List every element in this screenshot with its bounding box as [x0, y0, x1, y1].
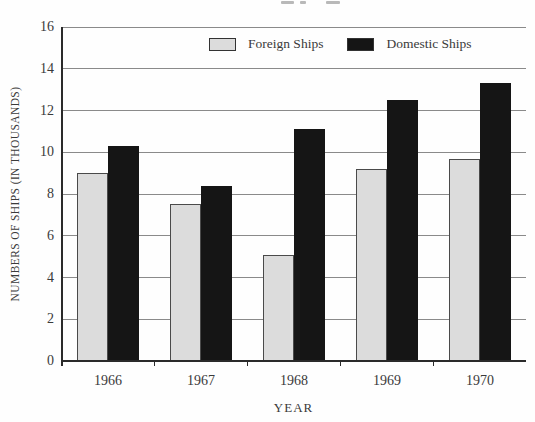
bar-domestic-ships-1969 — [387, 100, 418, 361]
y-axis-tick-label: 14 — [28, 61, 54, 77]
bar-foreign-ships-1967 — [170, 204, 201, 361]
gridline — [61, 110, 526, 111]
x-axis-tick-label: 1968 — [259, 373, 329, 389]
cropped-title-fragment — [326, 1, 340, 4]
x-axis-line — [61, 360, 526, 362]
legend-label: Domestic Ships — [386, 36, 471, 52]
y-axis-tick-label: 0 — [28, 353, 54, 369]
x-axis-tick-label: 1967 — [166, 373, 236, 389]
foreign-ships-swatch — [209, 38, 236, 51]
x-axis-tick-label: 1969 — [352, 373, 422, 389]
x-axis-title: YEAR — [61, 400, 526, 416]
chart-figure: Foreign Ships Domestic Ships NUMBERS OF … — [0, 0, 535, 422]
cropped-title-fragment — [281, 1, 294, 4]
gridline — [61, 68, 526, 69]
cropped-title-fragment — [300, 1, 306, 4]
x-axis-tick-label: 1970 — [445, 373, 515, 389]
legend-label: Foreign Ships — [248, 36, 323, 52]
bar-foreign-ships-1966 — [77, 173, 108, 361]
gridline — [61, 27, 526, 28]
y-axis-title: NUMBERS OF SHIPS (IN THOUSANDS) — [9, 87, 21, 302]
y-axis-tick-label: 12 — [28, 103, 54, 119]
x-axis-tick-label: 1966 — [73, 373, 143, 389]
y-axis-tick-label: 8 — [28, 186, 54, 202]
bar-domestic-ships-1967 — [201, 186, 232, 361]
y-axis-tick-label: 6 — [28, 228, 54, 244]
domestic-ships-swatch — [347, 38, 374, 51]
legend: Foreign Ships Domestic Ships — [209, 36, 472, 52]
bar-foreign-ships-1969 — [356, 169, 387, 361]
bar-domestic-ships-1968 — [294, 129, 325, 361]
y-axis-line — [61, 27, 63, 366]
legend-item-domestic-ships: Domestic Ships — [347, 36, 471, 52]
y-axis-tick-label: 10 — [28, 144, 54, 160]
bar-foreign-ships-1968 — [263, 255, 294, 361]
bar-foreign-ships-1970 — [449, 159, 480, 361]
y-axis-tick-label: 16 — [28, 19, 54, 35]
y-axis-tick-label: 4 — [28, 270, 54, 286]
bar-domestic-ships-1966 — [108, 146, 139, 361]
bar-domestic-ships-1970 — [480, 83, 511, 361]
y-axis-tick-label: 2 — [28, 311, 54, 327]
legend-item-foreign-ships: Foreign Ships — [209, 36, 323, 52]
